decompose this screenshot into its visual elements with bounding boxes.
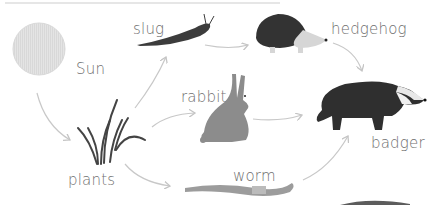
label-worm: worm xyxy=(233,167,276,185)
arrow-sun-to-plants xyxy=(37,93,70,140)
hedgehog-icon xyxy=(256,14,328,53)
arrow-plants-to-rabbit xyxy=(152,113,195,127)
sun-icon xyxy=(13,23,65,75)
arrow-worm-to-badger xyxy=(303,136,348,180)
arrow-plants-to-worm xyxy=(125,164,170,186)
arrow-hedgehog-to-badger xyxy=(333,43,362,71)
partial-shape-bottom xyxy=(340,201,410,205)
food-web-diagram: Sun plants slug rabbit worm hedgehog bad… xyxy=(0,0,435,205)
label-rabbit: rabbit xyxy=(181,88,227,106)
label-plants: plants xyxy=(68,171,115,189)
arrow-slug-to-hedgehog xyxy=(205,45,248,48)
label-hedgehog: hedgehog xyxy=(331,20,407,38)
arrow-rabbit-to-badger xyxy=(253,115,302,120)
label-sun: Sun xyxy=(76,60,105,78)
rabbit-icon xyxy=(200,74,249,143)
plants-icon xyxy=(78,100,145,164)
label-badger: badger xyxy=(371,134,425,152)
arrow-plants-to-slug xyxy=(135,57,166,108)
label-slug: slug xyxy=(133,20,164,38)
badger-icon xyxy=(317,81,427,130)
